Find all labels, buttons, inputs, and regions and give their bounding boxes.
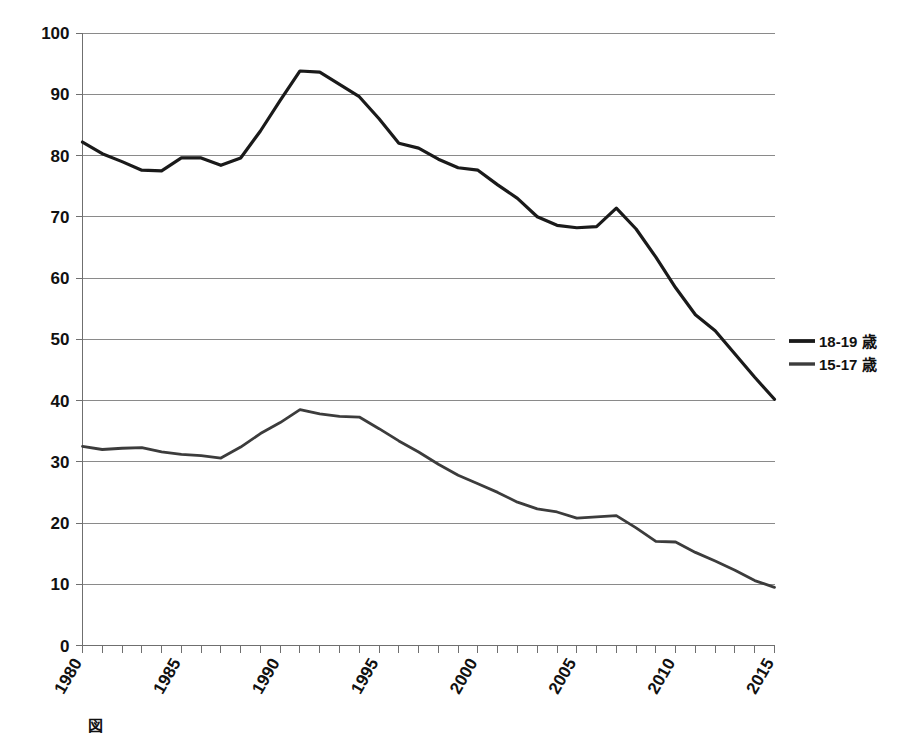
caption-label: 図 (88, 717, 103, 733)
figure-caption: 図 (88, 717, 103, 733)
y-tick-label: 20 (51, 514, 70, 533)
legend-label-1: 15-17 歳 (819, 356, 877, 373)
chart-background (0, 0, 913, 733)
legend-label-0: 18-19 歳 (819, 333, 877, 350)
y-tick-label: 90 (51, 85, 70, 104)
y-tick-label: 40 (51, 392, 70, 411)
y-tick-label: 0 (60, 637, 69, 656)
y-tick-label: 10 (51, 575, 70, 594)
y-tick-label: 60 (51, 269, 70, 288)
y-tick-label: 80 (51, 147, 70, 166)
y-tick-label: 50 (51, 330, 70, 349)
y-tick-label: 70 (51, 208, 70, 227)
y-tick-label: 100 (41, 24, 69, 43)
line-chart-figure: 0102030405060708090100 19801985199019952… (0, 0, 913, 733)
chart-canvas: 0102030405060708090100 19801985199019952… (0, 0, 913, 733)
y-tick-label: 30 (51, 453, 70, 472)
